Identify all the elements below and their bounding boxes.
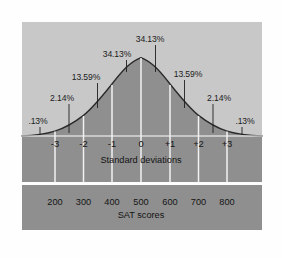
sat-tick-500: 500: [133, 197, 148, 207]
bell-curve-chart: .13% 2.14% 13.59% 34.13% 34.13% 13.59% 2…: [0, 0, 282, 258]
sat-tick-300: 300: [76, 197, 91, 207]
pct-label-right-3: 2.14%: [207, 93, 231, 103]
sat-tick-200: 200: [47, 197, 62, 207]
normal-distribution-figure: .13% 2.14% 13.59% 34.13% 34.13% 13.59% 2…: [0, 0, 282, 258]
panel-band-separator: [22, 182, 262, 185]
sat-tick-800: 800: [219, 197, 234, 207]
pct-label-left-3: 2.14%: [50, 93, 74, 103]
sat-tick-600: 600: [162, 197, 177, 207]
pct-label-left-1: 34.13%: [103, 49, 132, 59]
sd-tick-zero: 0: [138, 138, 143, 149]
pct-label-right-1: 34.13%: [136, 34, 165, 44]
pct-label-left-outer: .13%: [28, 116, 48, 126]
sd-tick-plus2: +2: [193, 138, 204, 149]
sd-tick-plus1: +1: [165, 138, 176, 149]
sd-tick-plus3: +3: [222, 138, 233, 149]
sat-score-band: [22, 185, 262, 230]
sd-tick-minus3: -3: [51, 138, 59, 149]
pct-label-right-2: 13.59%: [174, 69, 203, 79]
sat-axis-title: SAT scores: [118, 210, 165, 220]
pct-label-left-2: 13.59%: [72, 72, 101, 82]
sd-tick-minus1: -1: [108, 138, 116, 149]
sat-tick-700: 700: [191, 197, 206, 207]
sat-tick-400: 400: [104, 197, 119, 207]
x-axis-title: Standard deviations: [100, 155, 182, 165]
pct-label-right-outer: .13%: [235, 116, 255, 126]
sd-tick-minus2: -2: [79, 138, 87, 149]
